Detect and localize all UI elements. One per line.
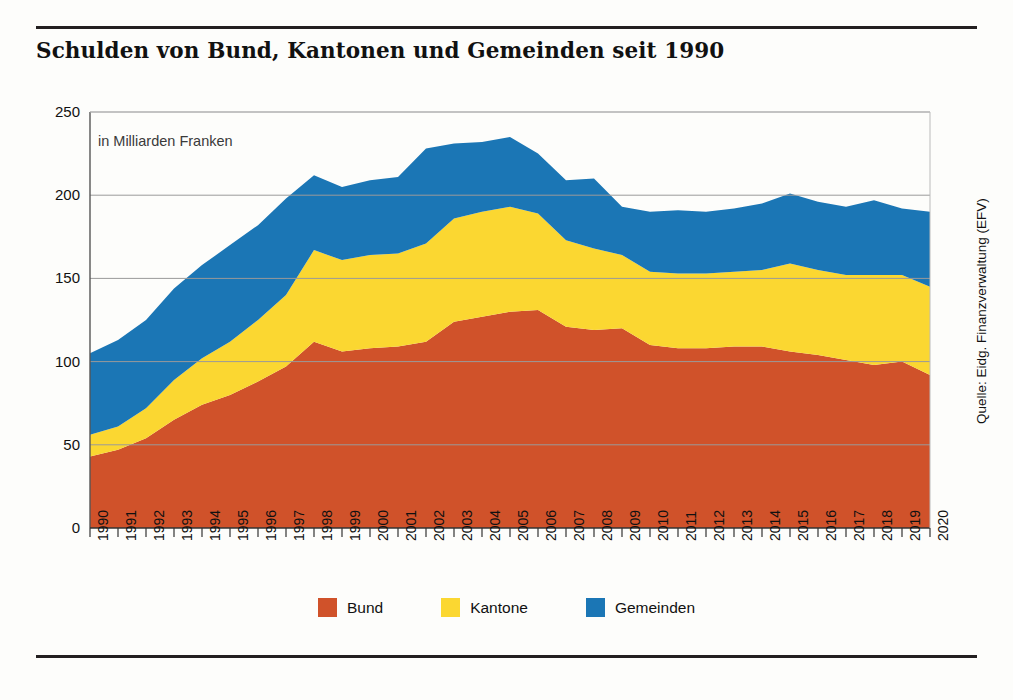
x-axis-tick-label: 1991: [123, 510, 139, 541]
x-axis-tick-label: 2004: [487, 510, 503, 541]
x-axis-tick-label: 2008: [599, 510, 615, 541]
chart-legend: BundKantoneGemeinden: [0, 598, 1013, 617]
figure-page: Schulden von Bund, Kantonen und Gemeinde…: [0, 0, 1013, 700]
x-axis-tick-label: 2013: [739, 510, 755, 541]
x-axis-tick-label: 1993: [179, 510, 195, 541]
x-axis-tick-label: 2019: [907, 510, 923, 541]
x-axis-tick-label: 1999: [347, 510, 363, 541]
axis-unit-note: in Milliarden Franken: [98, 133, 233, 149]
legend-label: Bund: [347, 599, 383, 617]
legend-label: Gemeinden: [615, 599, 695, 617]
x-axis-tick-label: 1997: [291, 510, 307, 541]
legend-swatch-icon: [586, 598, 605, 617]
y-axis-tick-label: 250: [34, 103, 80, 120]
legend-item[interactable]: Kantone: [441, 598, 528, 617]
x-axis-tick-label: 1996: [263, 510, 279, 541]
legend-swatch-icon: [318, 598, 337, 617]
x-axis-tick-label: 1998: [319, 510, 335, 541]
y-axis-tick-label: 150: [34, 269, 80, 286]
x-axis-tick-label: 2017: [851, 510, 867, 541]
x-axis-tick-label: 2018: [879, 510, 895, 541]
stacked-area-chart: [0, 0, 1013, 700]
x-axis-tick-label: 2009: [627, 510, 643, 541]
legend-item[interactable]: Gemeinden: [586, 598, 695, 617]
x-axis-tick-label: 2012: [711, 510, 727, 541]
x-axis-tick-label: 2006: [543, 510, 559, 541]
y-axis-tick-label: 50: [34, 436, 80, 453]
legend-label: Kantone: [470, 599, 528, 617]
x-axis-tick-label: 2007: [571, 510, 587, 541]
x-axis-tick-label: 2003: [459, 510, 475, 541]
x-axis-tick-label: 2016: [823, 510, 839, 541]
x-axis-tick-label: 2001: [403, 510, 419, 541]
x-axis-tick-label: 2011: [683, 511, 699, 541]
x-axis-tick-label: 2015: [795, 510, 811, 541]
legend-swatch-icon: [441, 598, 460, 617]
x-axis-tick-label: 2020: [935, 510, 951, 541]
source-note: Quelle: Eidg. Finanzverwaltung (EFV): [974, 198, 989, 424]
x-axis-tick-label: 2005: [515, 510, 531, 541]
x-axis-tick-label: 2002: [431, 510, 447, 541]
y-axis-tick-label: 0: [34, 519, 80, 536]
x-axis-tick-label: 2010: [655, 510, 671, 541]
y-axis-tick-label: 100: [34, 353, 80, 370]
x-axis-tick-label: 2014: [767, 510, 783, 541]
x-axis-tick-label: 1995: [235, 510, 251, 541]
x-axis-tick-label: 2000: [375, 510, 391, 541]
x-axis-tick-label: 1992: [151, 510, 167, 541]
y-axis-tick-label: 200: [34, 186, 80, 203]
legend-item[interactable]: Bund: [318, 598, 383, 617]
chart-plot-area: [0, 0, 1013, 700]
x-axis-tick-label: 1994: [207, 510, 223, 541]
x-axis-tick-label: 1990: [95, 510, 111, 541]
